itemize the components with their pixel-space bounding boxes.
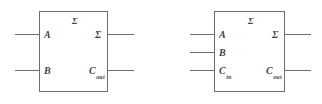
figure-canvas: Σ A B Σ Cout Σ A B Cin Σ Cout: [0, 0, 322, 104]
half-adder-input-label-a: A: [44, 30, 51, 40]
adder-diagram-lines: [0, 0, 322, 104]
full-adder-output-label-cout: Cout: [266, 66, 281, 78]
half-adder-cout-subscript: out: [96, 74, 105, 80]
half-adder-input-label-b: B: [44, 66, 51, 76]
full-adder-input-label-cin: Cin: [219, 66, 231, 78]
full-adder-input-label-a: A: [219, 30, 226, 40]
half-adder-cout-base: C: [89, 65, 96, 76]
full-adder-cout-subscript: out: [273, 74, 282, 80]
half-adder-output-label-cout: Cout: [89, 66, 104, 78]
full-adder-cout-base: C: [266, 65, 273, 76]
full-adder-cin-base: C: [219, 65, 226, 76]
half-adder-output-label-sum: Σ: [95, 30, 101, 40]
full-adder-cin-subscript: in: [226, 74, 231, 80]
full-adder-inner-sigma-label: Σ: [248, 17, 254, 26]
full-adder-output-label-sum: Σ: [272, 30, 278, 40]
full-adder-input-label-b: B: [219, 48, 226, 58]
half-adder-inner-sigma-label: Σ: [72, 17, 78, 26]
